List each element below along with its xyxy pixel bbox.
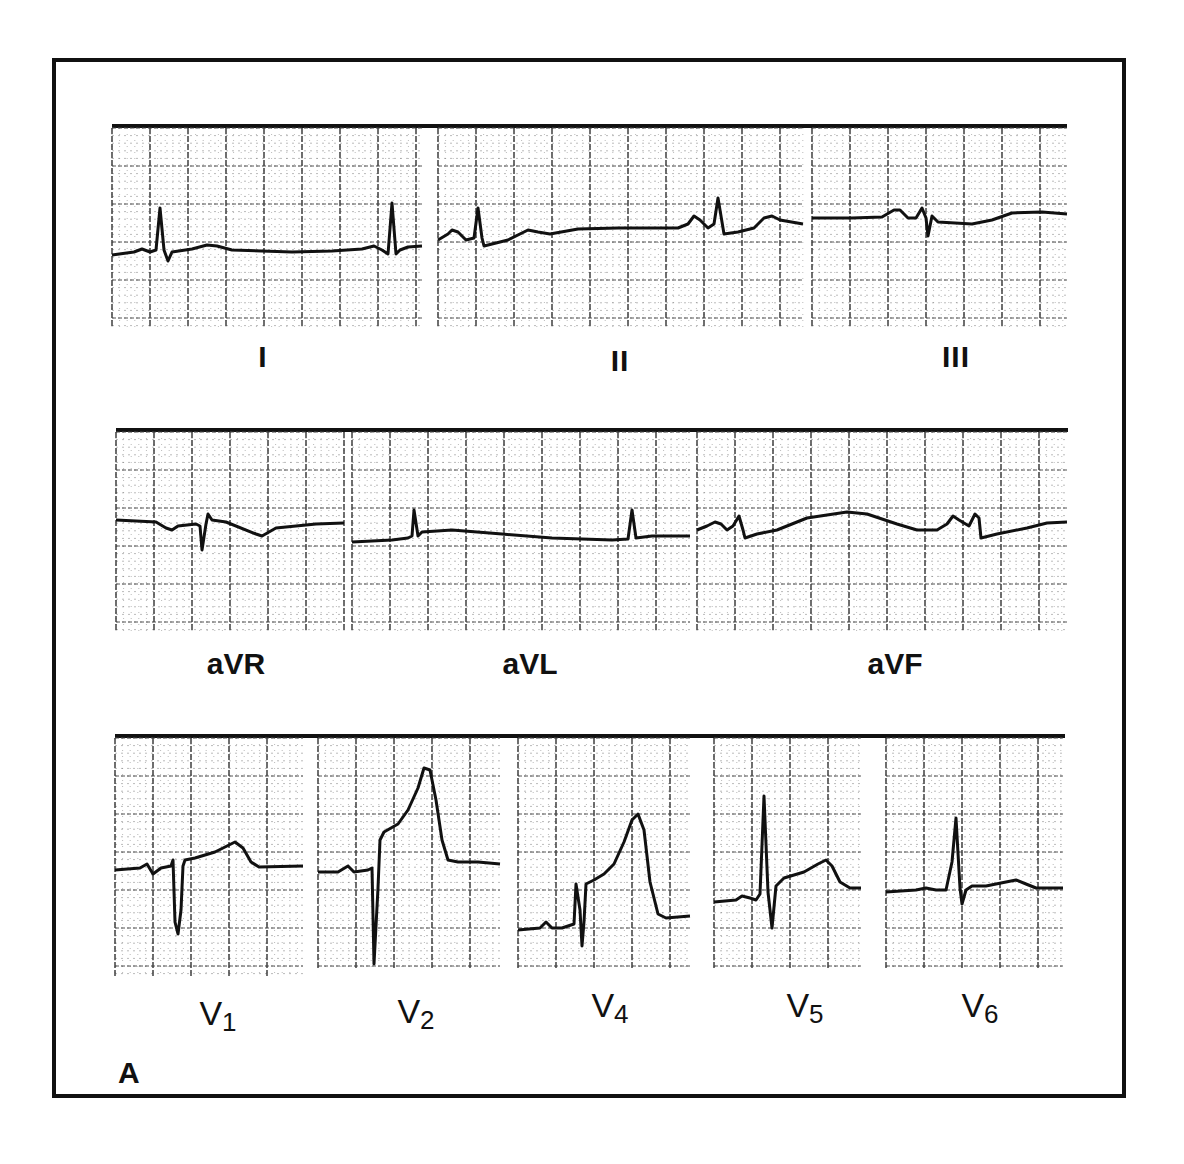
ecg-strip-lead-V5 — [714, 738, 861, 970]
ecg-strip-lead-III — [812, 128, 1067, 328]
ecg-grid-and-trace — [886, 738, 1063, 970]
ecg-grid-and-trace — [518, 738, 690, 970]
ecg-strip-lead-aVL — [352, 432, 690, 632]
lead-label-III: III — [942, 340, 970, 374]
ecg-strip-lead-II — [438, 128, 803, 328]
lead-label-aVF: aVF — [867, 647, 922, 681]
ecg-grid-and-trace — [318, 738, 500, 970]
ecg-strip-lead-aVF — [697, 432, 1067, 632]
ecg-grid-and-trace — [112, 128, 422, 328]
lead-label-V1: V1 — [199, 994, 236, 1033]
panel-letter: A — [118, 1056, 140, 1090]
lead-label-aVL: aVL — [502, 647, 557, 681]
lead-label-II: II — [611, 344, 630, 378]
ecg-grid-and-trace — [116, 432, 344, 632]
ecg-strip-lead-V4 — [518, 738, 690, 970]
lead-label-V4: V4 — [591, 986, 628, 1025]
lead-label-I: I — [258, 340, 267, 374]
lead-label-V5: V5 — [786, 986, 823, 1025]
ecg-grid-and-trace — [352, 432, 690, 632]
ecg-grid-and-trace — [115, 738, 303, 978]
ecg-strip-lead-V1 — [115, 738, 303, 978]
ecg-strip-lead-V2 — [318, 738, 500, 970]
lead-label-V6: V6 — [961, 986, 998, 1025]
ecg-strip-lead-aVR — [116, 432, 344, 632]
lead-label-aVR: aVR — [207, 647, 265, 681]
ecg-strip-lead-I — [112, 128, 422, 328]
ecg-grid-and-trace — [438, 128, 803, 328]
lead-label-V2: V2 — [397, 992, 434, 1031]
ecg-grid-and-trace — [697, 432, 1067, 632]
ecg-grid-and-trace — [812, 128, 1067, 328]
ecg-grid-and-trace — [714, 738, 861, 970]
ecg-strip-lead-V6 — [886, 738, 1063, 970]
